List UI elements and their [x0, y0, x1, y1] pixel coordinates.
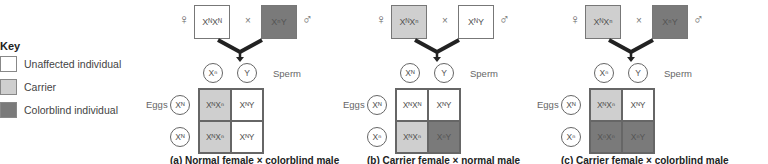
female-parent-box: XᴺXⁿ	[585, 5, 621, 39]
gamete-label: Y	[244, 68, 250, 78]
cross-arrow-icon	[601, 38, 661, 62]
female-genotype: XᴺXᴺ	[202, 17, 222, 27]
male-genotype: XⁿY	[271, 17, 286, 27]
male-symbol-icon: ♂	[499, 11, 510, 27]
unaffected-swatch	[0, 56, 17, 72]
key-title: Key	[0, 40, 20, 52]
offspring-cell: XᴺXⁿ	[199, 89, 231, 121]
gamete-label: Xᴺ	[405, 68, 414, 78]
offspring-cell: XⁿY	[622, 121, 654, 153]
male-symbol-icon: ♂	[302, 11, 313, 27]
offspring-cell: XⁿXⁿ	[590, 121, 622, 153]
offspring-cell: XᴺY	[622, 89, 654, 121]
egg-gamete: Xᴺ	[170, 95, 190, 115]
sperm-gamete: Y	[237, 63, 257, 83]
cross-arrow-icon	[407, 38, 467, 62]
offspring-genotype: XⁿY	[437, 132, 451, 142]
offspring-cell: XᴺXⁿ	[396, 121, 428, 153]
sperm-gamete: Y	[434, 63, 454, 83]
egg-gamete: Xⁿ	[367, 127, 387, 147]
punnett-grid: XᴺXⁿ XᴺY XᴺXⁿ XᴺY	[198, 88, 264, 154]
offspring-cell: XᴺXⁿ	[590, 89, 622, 121]
offspring-cell: XᴺXⁿ	[199, 121, 231, 153]
eggs-label: Eggs	[343, 99, 365, 110]
sperm-label: Sperm	[664, 68, 692, 79]
gamete-label: Xᴺ	[175, 100, 184, 110]
gamete-label: Xⁿ	[209, 68, 218, 78]
egg-gamete: Xᴺ	[561, 95, 581, 115]
eggs-label: Eggs	[537, 99, 559, 110]
gamete-label: Xᴺ	[372, 100, 381, 110]
sperm-label: Sperm	[470, 68, 498, 79]
female-symbol-icon: ♀	[570, 11, 581, 27]
male-symbol-icon: ♂	[693, 11, 704, 27]
offspring-cell: XᴺY	[231, 121, 263, 153]
gamete-label: Y	[441, 68, 447, 78]
female-parent-box: XᴺXᴺ	[194, 5, 230, 39]
gamete-label: Xᴺ	[566, 100, 575, 110]
female-symbol-icon: ♀	[179, 11, 190, 27]
sperm-label: Sperm	[273, 68, 301, 79]
offspring-genotype: XᴺXⁿ	[403, 132, 421, 142]
key-label: Carrier	[24, 81, 56, 93]
eggs-label: Eggs	[146, 99, 168, 110]
cross-symbol: ×	[245, 15, 251, 26]
cross-symbol: ×	[442, 15, 448, 26]
key-label: Unaffected individual	[24, 58, 121, 70]
panel-caption: (c) Carrier female × colorblind male	[561, 155, 729, 164]
offspring-genotype: XⁿY	[631, 132, 645, 142]
gamete-label: Xⁿ	[567, 132, 576, 142]
female-symbol-icon: ♀	[376, 11, 387, 27]
egg-gamete: Xᴺ	[170, 127, 190, 147]
offspring-genotype: XᴺXⁿ	[206, 100, 224, 110]
offspring-cell: XᴺXᴺ	[396, 89, 428, 121]
key-item-colorblind: Colorblind individual	[0, 101, 118, 118]
gamete-label: Xⁿ	[600, 68, 609, 78]
cross-arrow-icon	[210, 38, 270, 62]
offspring-genotype: XᴺXⁿ	[597, 100, 615, 110]
egg-gamete: Xⁿ	[561, 127, 581, 147]
offspring-genotype: XᴺXᴺ	[403, 100, 422, 110]
sperm-gamete: Y	[628, 63, 648, 83]
offspring-cell: XᴺY	[428, 89, 460, 121]
colorblind-swatch	[0, 102, 17, 118]
male-genotype: XᴺY	[468, 17, 484, 27]
key-item-carrier: Carrier	[0, 78, 56, 95]
egg-gamete: Xᴺ	[367, 95, 387, 115]
offspring-genotype: XᴺY	[240, 132, 255, 142]
sperm-gamete: Xᴺ	[400, 63, 420, 83]
carrier-swatch	[0, 79, 17, 95]
key-label: Colorblind individual	[24, 104, 118, 116]
male-parent-box: XⁿY	[261, 5, 297, 39]
panel-caption: (a) Normal female × colorblind male	[170, 155, 339, 164]
gamete-label: Y	[635, 68, 641, 78]
male-parent-box: XᴺY	[458, 5, 494, 39]
key-item-unaffected: Unaffected individual	[0, 55, 121, 72]
offspring-genotype: XⁿXⁿ	[597, 132, 615, 142]
cross-symbol: ×	[636, 15, 642, 26]
sperm-gamete: Xⁿ	[203, 63, 223, 83]
panel-caption: (b) Carrier female × normal male	[367, 155, 520, 164]
offspring-genotype: XᴺY	[437, 100, 452, 110]
female-parent-box: XᴺXⁿ	[391, 5, 427, 39]
female-genotype: XᴺXⁿ	[593, 17, 612, 27]
gamete-label: Xⁿ	[373, 132, 382, 142]
offspring-genotype: XᴺY	[240, 100, 255, 110]
male-genotype: XⁿY	[662, 17, 677, 27]
male-parent-box: XⁿY	[652, 5, 688, 39]
punnett-grid: XᴺXᴺ XᴺY XᴺXⁿ XⁿY	[395, 88, 461, 154]
offspring-cell: XⁿY	[428, 121, 460, 153]
sperm-gamete: Xⁿ	[594, 63, 614, 83]
gamete-label: Xᴺ	[175, 132, 184, 142]
offspring-cell: XᴺY	[231, 89, 263, 121]
female-genotype: XᴺXⁿ	[399, 17, 418, 27]
punnett-grid: XᴺXⁿ XᴺY XⁿXⁿ XⁿY	[589, 88, 655, 154]
offspring-genotype: XᴺXⁿ	[206, 132, 224, 142]
offspring-genotype: XᴺY	[631, 100, 646, 110]
